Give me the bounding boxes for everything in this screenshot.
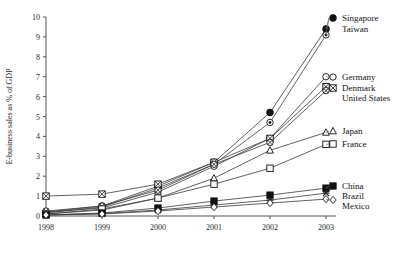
y-tick-label: 10 bbox=[32, 13, 40, 22]
data-point-united-states bbox=[267, 139, 273, 145]
legend-marker-china bbox=[330, 183, 336, 189]
line-chart: 012345678910E-business sales as % of GDP… bbox=[0, 0, 416, 261]
chart-container: 012345678910E-business sales as % of GDP… bbox=[0, 0, 416, 261]
legend-marker-mexico bbox=[330, 196, 336, 203]
data-point-united-states bbox=[211, 161, 217, 167]
legend-label-germany: Germany bbox=[342, 72, 376, 82]
data-point-united-states bbox=[155, 187, 161, 193]
x-tick-label: 2003 bbox=[318, 223, 334, 232]
data-point-denmark bbox=[43, 193, 49, 199]
data-point-japan bbox=[323, 129, 330, 135]
legend-marker-france bbox=[330, 141, 336, 147]
legend-label-singapore: Singapore bbox=[342, 13, 379, 23]
data-point-mexico bbox=[323, 195, 329, 202]
y-tick-label: 4 bbox=[36, 132, 40, 141]
x-tick-label: 2001 bbox=[206, 223, 222, 232]
legend-marker-japan bbox=[330, 127, 337, 133]
legend-label-japan: Japan bbox=[342, 126, 363, 136]
legend-label-france: France bbox=[342, 139, 367, 149]
y-tick-label: 3 bbox=[36, 152, 40, 161]
series-line-taiwan bbox=[46, 35, 326, 213]
y-tick-label: 9 bbox=[36, 33, 40, 42]
data-point-singapore bbox=[267, 109, 274, 116]
legend-label-denmark: Denmark bbox=[342, 83, 376, 93]
y-tick-label: 7 bbox=[36, 73, 40, 82]
x-tick-label: 2002 bbox=[262, 223, 278, 232]
data-point-denmark bbox=[155, 181, 161, 187]
data-point-france bbox=[267, 165, 273, 171]
data-point-japan bbox=[211, 175, 218, 181]
series-line-singapore bbox=[46, 29, 326, 212]
x-tick-label: 1998 bbox=[38, 223, 54, 232]
series-line-brazil bbox=[46, 193, 326, 215]
legend-label-mexico: Mexico bbox=[342, 201, 370, 211]
data-point-france bbox=[211, 181, 217, 187]
legend-marker-singapore bbox=[330, 15, 337, 22]
series-line-denmark bbox=[46, 87, 326, 196]
y-tick-label: 2 bbox=[36, 172, 40, 181]
legend-label-china: China bbox=[342, 181, 364, 191]
legend-marker-denmark bbox=[330, 85, 336, 91]
data-point-denmark bbox=[99, 191, 105, 197]
series-line-germany bbox=[46, 77, 326, 212]
x-tick-label: 2000 bbox=[150, 223, 166, 232]
legend-label-united-states: United States bbox=[342, 93, 391, 103]
data-point-taiwan bbox=[267, 119, 273, 125]
y-tick-label: 8 bbox=[36, 53, 40, 62]
x-tick-label: 1999 bbox=[94, 223, 110, 232]
y-tick-label: 0 bbox=[36, 212, 40, 221]
legend-label-taiwan: Taiwan bbox=[342, 24, 369, 34]
legend-label-brazil: Brazil bbox=[342, 191, 364, 201]
legend-marker-germany bbox=[330, 74, 336, 80]
y-tick-label: 5 bbox=[36, 113, 40, 122]
y-axis-title: E-business sales as % of GDP bbox=[5, 68, 14, 165]
data-point-france bbox=[155, 195, 161, 201]
y-tick-label: 6 bbox=[36, 93, 40, 102]
y-tick-label: 1 bbox=[36, 192, 40, 201]
